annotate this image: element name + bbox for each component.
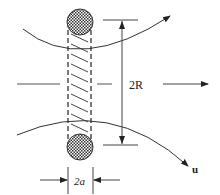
- label-2a: 2a: [74, 175, 86, 187]
- label-u: u: [192, 163, 198, 175]
- upper-streamline: [23, 16, 170, 49]
- bottom-core-circle: [67, 134, 93, 160]
- label-2R: 2R: [129, 78, 143, 92]
- vortex-tube: [68, 30, 91, 145]
- top-core-circle: [67, 9, 93, 35]
- lower-streamline: [17, 121, 188, 166]
- vortex-ring-diagram: 2R 2a u: [0, 0, 220, 195]
